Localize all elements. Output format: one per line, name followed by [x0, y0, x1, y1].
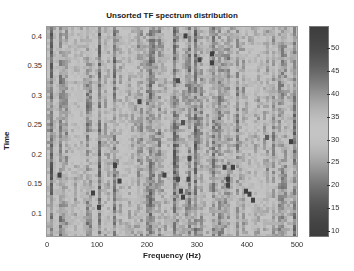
colorbar-tick: 20 — [331, 180, 339, 189]
y-tick: 0.3 — [12, 91, 42, 100]
x-tick: 100 — [82, 240, 112, 249]
x-tick: 300 — [182, 240, 212, 249]
y-tick: 0.2 — [12, 150, 42, 159]
colorbar-tick: 45 — [331, 66, 339, 75]
y-tick: 0.15 — [12, 179, 42, 188]
colorbar-tick: 10 — [331, 226, 339, 235]
colorbar-tick: 50 — [331, 43, 339, 52]
heatmap-canvas — [47, 27, 297, 236]
y-tick: 0.1 — [12, 209, 42, 218]
y-tick: 0.4 — [12, 32, 42, 41]
x-tick: 0 — [32, 240, 62, 249]
colorbar — [310, 27, 328, 236]
y-axis-label: Time — [2, 131, 11, 150]
y-tick: 0.35 — [12, 61, 42, 70]
heatmap-plot-area — [47, 27, 297, 236]
x-axis-label: Frequency (Hz) — [47, 251, 297, 260]
colorbar-tick: 35 — [331, 112, 339, 121]
colorbar-tick: 25 — [331, 157, 339, 166]
colorbar-tick: 40 — [331, 89, 339, 98]
x-tick: 200 — [132, 240, 162, 249]
colorbar-tick: 15 — [331, 203, 339, 212]
x-tick: 400 — [232, 240, 262, 249]
y-tick: 0.25 — [12, 120, 42, 129]
colorbar-gradient — [310, 27, 328, 236]
chart-title: Unsorted TF spectrum distribution — [47, 11, 297, 20]
colorbar-tick: 30 — [331, 135, 339, 144]
x-tick: 500 — [282, 240, 312, 249]
